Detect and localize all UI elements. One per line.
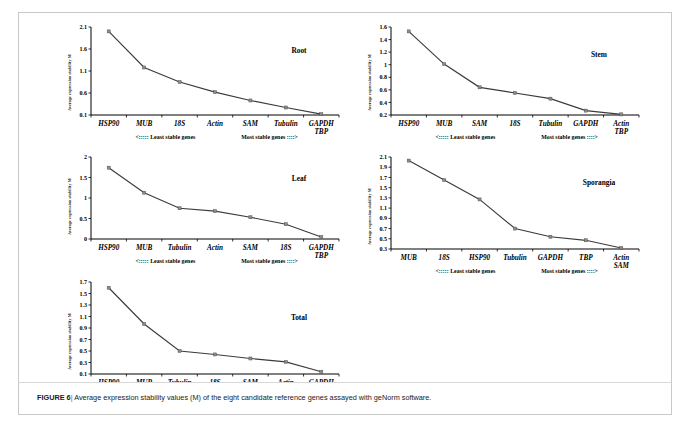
most-stable-note: Most stable genes ::::> [241,258,298,264]
y-tick-label: 0 [84,236,87,242]
data-point-marker [549,97,552,100]
series-line [109,168,322,237]
x-category-label: MUB [400,254,418,262]
x-category-label: Actin [612,254,629,262]
x-category-label: Tubulin [274,120,298,128]
x-category-label: 18S [509,120,520,128]
series-line [109,288,322,372]
data-point-marker [320,235,323,238]
y-tick-label: 0.9 [379,215,387,221]
y-tick-label: 1.4 [379,37,387,43]
x-category-label: SAM [243,120,259,128]
x-category-label: TBP [314,128,328,136]
y-axis-label: Average expression stability M [67,313,72,370]
x-category-label: TBP [579,254,593,262]
data-point-marker [107,30,110,33]
y-tick-label: 0.6 [379,87,387,93]
least-stable-note: <::::: Least stable genes [436,134,497,140]
caption-body: Average expression stability values (M) … [74,393,431,402]
y-tick-label: 1.6 [79,46,87,52]
data-point-marker [249,357,252,360]
data-point-marker [320,370,323,373]
x-category-label: 18S [280,244,291,252]
x-category-label: HSP90 [97,244,120,252]
y-tick-label: 1.5 [379,185,387,191]
y-tick-label: 0.9 [79,325,87,331]
figure-frame: 0.10.61.11.62.1HSP90MUB18SActinSAMTubuli… [18,12,672,415]
y-tick-label: 1.7 [379,175,387,181]
x-category-label: Actin [612,120,629,128]
y-tick-label: 0.5 [79,348,87,354]
x-category-label: 18S [174,120,185,128]
y-tick-label: 0.3 [379,246,387,252]
x-category-label: TBP [314,252,328,260]
x-category-label: MUB [135,120,153,128]
data-point-marker [107,166,110,169]
data-point-marker [320,113,323,116]
y-tick-label: 2.1 [379,154,387,160]
y-tick-label: 1.2 [379,49,387,55]
data-point-marker [213,91,216,94]
y-tick-label: 0.1 [79,112,87,118]
chart-svg: 0.20.40.60.811.21.41.6HSP90MUBSAM18STubu… [361,21,655,157]
data-point-marker [178,207,181,210]
data-point-marker [178,80,181,83]
series-line [409,161,622,248]
x-category-label: SAM [243,244,259,252]
chart-svg: 0.30.50.70.91.11.31.51.71.92.1MUB18SHSP9… [361,151,655,291]
x-category-label: GAPDH [309,244,335,252]
x-category-label: Actin [206,120,223,128]
data-point-marker [513,227,516,230]
least-stable-note: <::::: Least stable genes [136,134,197,140]
panel-title: Root [291,46,307,55]
figure-caption-bar: FIGURE 6| Average expression stability v… [19,382,671,414]
panel-title: Total [291,313,307,322]
x-category-label: SAM [472,120,488,128]
y-tick-label: 1.1 [79,68,87,74]
charts-area: 0.10.61.11.62.1HSP90MUB18SActinSAMTubuli… [19,13,671,383]
data-point-marker [213,353,216,356]
data-point-marker [478,198,481,201]
data-point-marker [478,86,481,89]
y-axis-label: Average expression stability M [67,54,72,111]
data-point-marker [620,113,623,116]
least-stable-note: <::::: Least stable genes [436,268,497,274]
x-category-label: GAPDH [309,120,335,128]
caption-separator: | [71,393,73,402]
y-tick-label: 1.6 [379,24,387,30]
data-point-marker [284,106,287,109]
y-tick-label: 1.7 [79,279,87,285]
data-point-marker [284,360,287,363]
data-point-marker [584,109,587,112]
data-point-marker [249,216,252,219]
y-tick-label: 0.3 [79,360,87,366]
data-point-marker [249,99,252,102]
y-tick-label: 2.1 [79,24,87,30]
chart-svg: 0.10.61.11.62.1HSP90MUB18SActinSAMTubuli… [61,21,355,157]
y-tick-label: 0.8 [379,74,387,80]
panel-title: Sporangia [583,178,616,187]
y-tick-label: 0.5 [379,236,387,242]
y-tick-label: 0.2 [379,112,387,118]
most-stable-note: Most stable genes ::::> [541,268,598,274]
x-category-label: Tubulin [503,254,527,262]
data-point-marker [143,322,146,325]
y-tick-label: 1.5 [79,291,87,297]
x-category-label: TBP [614,128,628,136]
y-tick-label: 0.5 [79,216,87,222]
x-category-label: Tubulin [539,120,563,128]
data-point-marker [443,63,446,66]
data-point-marker [407,30,410,33]
data-point-marker [549,235,552,238]
y-tick-label: 0.7 [379,226,387,232]
y-tick-label: 0.4 [379,100,387,106]
data-point-marker [620,246,623,249]
data-point-marker [143,66,146,69]
y-axis-label: Average expression stability M [367,54,372,111]
panel-title: Leaf [292,174,307,183]
y-tick-label: 2 [84,154,87,160]
y-tick-label: 1.5 [79,175,87,181]
chart-panel-sporangia: 0.30.50.70.91.11.31.51.71.92.1MUB18SHSP9… [361,151,655,291]
x-category-label: HSP90 [397,120,420,128]
x-category-label: MUB [135,244,153,252]
